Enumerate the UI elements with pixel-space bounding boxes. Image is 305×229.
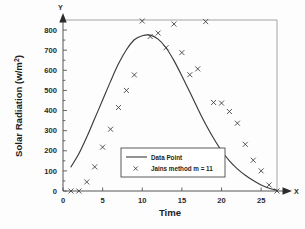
data-marker bbox=[108, 127, 113, 132]
x-axis-end-label: X bbox=[294, 187, 299, 196]
data-marker bbox=[171, 22, 176, 27]
data-marker bbox=[92, 164, 97, 169]
y-tick-label: 700 bbox=[44, 46, 57, 55]
data-marker bbox=[132, 72, 137, 77]
y-axis-title: Solar Radiation (w/m2) bbox=[13, 55, 24, 157]
y-tick-label: 0 bbox=[53, 187, 57, 196]
y-tick-label: 200 bbox=[44, 146, 57, 155]
y-tick-label: 400 bbox=[44, 106, 57, 115]
x-tick-label: 5 bbox=[101, 196, 106, 205]
y-axis-arrow-icon bbox=[59, 13, 66, 23]
legend-label-data-point: Data Point bbox=[151, 154, 183, 161]
chart-legend: Data Point Jains method m = 11 bbox=[121, 148, 225, 177]
data-marker bbox=[259, 168, 264, 173]
y-axis-title-base: Solar Radiation (w/m bbox=[13, 62, 24, 157]
x-tick-label: 0 bbox=[61, 196, 65, 205]
data-marker bbox=[116, 105, 121, 110]
data-marker bbox=[140, 19, 145, 24]
data-marker bbox=[179, 50, 184, 55]
data-marker bbox=[187, 72, 192, 77]
x-axis: X bbox=[63, 187, 299, 196]
data-marker bbox=[267, 182, 272, 187]
y-tick-label: 500 bbox=[44, 86, 57, 95]
data-marker bbox=[124, 88, 129, 93]
x-tick-label: 25 bbox=[257, 196, 266, 205]
data-marker bbox=[211, 100, 216, 105]
x-axis-ticks: 0510152025 bbox=[61, 188, 266, 206]
data-marker bbox=[195, 66, 200, 71]
y-axis-ticks: 0100200300400500600700800 bbox=[44, 26, 67, 196]
x-tick-label: 20 bbox=[217, 196, 225, 205]
legend-box bbox=[121, 148, 225, 177]
data-marker bbox=[243, 142, 248, 147]
y-tick-label: 600 bbox=[44, 66, 57, 75]
x-axis-title: Time bbox=[159, 207, 181, 218]
x-tick-label: 15 bbox=[178, 196, 187, 205]
data-marker bbox=[235, 121, 240, 126]
data-marker bbox=[251, 158, 256, 163]
data-marker bbox=[100, 145, 105, 150]
x-axis-arrow-icon bbox=[283, 187, 293, 194]
data-marker bbox=[156, 31, 161, 36]
data-marker bbox=[219, 101, 224, 106]
data-marker bbox=[227, 109, 232, 114]
y-axis-end-label: Y bbox=[58, 3, 63, 12]
y-tick-label: 300 bbox=[44, 126, 57, 135]
y-axis-title-close: ) bbox=[13, 55, 24, 58]
x-tick-label: 10 bbox=[138, 196, 146, 205]
legend-label-jains-method: Jains method m = 11 bbox=[151, 165, 213, 172]
y-axis: Y bbox=[58, 3, 67, 191]
y-tick-label: 800 bbox=[44, 26, 57, 35]
data-marker bbox=[164, 45, 169, 50]
data-marker bbox=[84, 179, 89, 184]
y-tick-label: 100 bbox=[44, 167, 57, 176]
svg-text:Solar Radiation (w/m2): Solar Radiation (w/m2) bbox=[13, 55, 24, 157]
chart-canvas: Y X 0100200300400500600700800 0510152025… bbox=[0, 0, 305, 229]
solar-radiation-chart-figure: Y X 0100200300400500600700800 0510152025… bbox=[0, 0, 305, 229]
